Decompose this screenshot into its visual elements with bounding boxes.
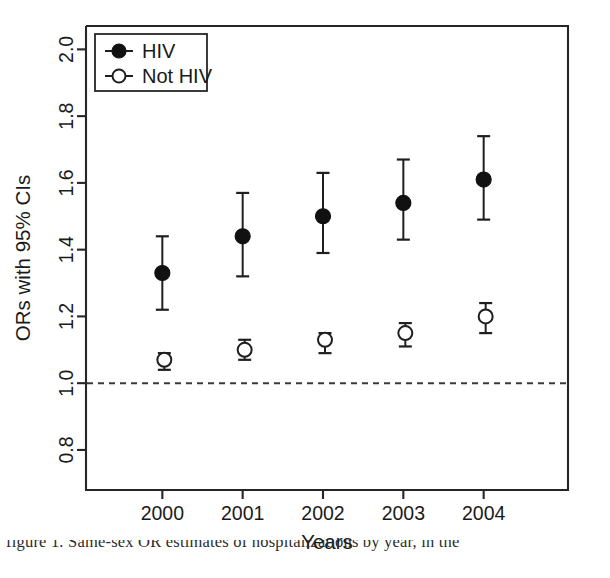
filled-circle-marker	[316, 209, 331, 224]
filled-circle-marker	[476, 172, 491, 187]
x-axis: 20002001200220032004	[141, 490, 506, 524]
open-circle-marker	[157, 353, 171, 367]
filled-circle-marker	[155, 266, 170, 281]
filled-circle-icon	[112, 44, 126, 58]
y-tick-label: 1.4	[55, 236, 77, 263]
error-bar-chart: 0.81.01.21.41.61.82.0 200020012002200320…	[0, 0, 610, 578]
open-circle-icon	[113, 70, 126, 83]
series-hiv	[155, 136, 491, 310]
plot-frame	[86, 26, 568, 490]
data-point-hiv-2001[interactable]	[235, 193, 250, 276]
y-tick-label: 1.0	[55, 369, 77, 396]
open-circle-marker	[479, 309, 493, 323]
open-circle-marker	[398, 326, 412, 340]
open-circle-marker	[238, 343, 252, 357]
data-point-not-hiv-2001[interactable]	[238, 340, 252, 360]
legend-label: Not HIV	[142, 65, 213, 87]
data-point-hiv-2003[interactable]	[396, 160, 411, 240]
caption-strip: figure 1. Same-sex OR estimates of hospi…	[0, 540, 610, 578]
legend-label: HIV	[142, 40, 176, 62]
series-not-hiv	[157, 303, 492, 370]
y-tick-label: 0.8	[55, 436, 77, 463]
plot-box	[86, 26, 568, 490]
data-point-hiv-2002[interactable]	[316, 173, 331, 253]
filled-circle-marker	[235, 229, 250, 244]
data-point-not-hiv-2004[interactable]	[479, 303, 493, 333]
x-tick-label: 2000	[141, 502, 185, 524]
y-tick-label: 2.0	[55, 36, 77, 63]
caption-partial-line: figure 1. Same-sex OR estimates of hospi…	[6, 540, 610, 552]
x-tick-label: 2004	[462, 502, 506, 524]
data-point-not-hiv-2000[interactable]	[157, 353, 171, 370]
y-axis-title: ORs with 95% CIs	[11, 175, 34, 341]
x-tick-label: 2003	[382, 502, 425, 524]
figure-container: 0.81.01.21.41.61.82.0 200020012002200320…	[0, 0, 610, 578]
y-tick-label: 1.6	[55, 169, 77, 196]
y-tick-label: 1.2	[55, 303, 77, 330]
filled-circle-marker	[396, 195, 411, 210]
open-circle-marker	[318, 333, 332, 347]
data-series-layer	[155, 136, 493, 370]
data-point-hiv-2004[interactable]	[476, 136, 491, 219]
data-point-not-hiv-2002[interactable]	[318, 333, 332, 353]
legend[interactable]: HIVNot HIV	[95, 34, 213, 91]
x-tick-label: 2002	[301, 502, 344, 524]
data-point-not-hiv-2003[interactable]	[398, 323, 412, 346]
x-tick-label: 2001	[221, 502, 264, 524]
y-tick-label: 1.8	[55, 103, 77, 130]
y-axis: 0.81.01.21.41.61.82.0	[55, 36, 86, 464]
data-point-hiv-2000[interactable]	[155, 236, 170, 309]
